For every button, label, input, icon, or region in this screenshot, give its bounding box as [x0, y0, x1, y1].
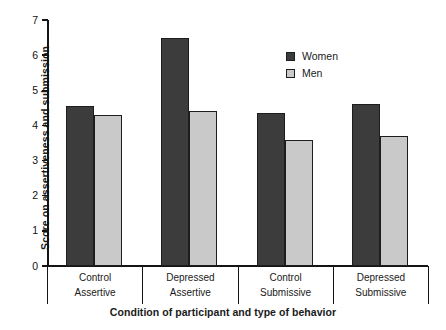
category-cell-2: DepressedAssertive [142, 266, 237, 304]
y-tick-label: 5 [22, 85, 38, 96]
y-tick-label: 0 [22, 261, 38, 272]
category-behavior-label: Submissive [260, 287, 311, 299]
bar-men-3 [285, 140, 313, 267]
bar-men-2 [189, 111, 217, 266]
x-axis-category-labels: ControlAssertiveDepressedAssertiveContro… [47, 266, 429, 304]
x-axis-title: Condition of participant and type of beh… [0, 306, 446, 318]
category-behavior-label: Submissive [355, 287, 406, 299]
category-cell-1: ControlAssertive [47, 266, 142, 304]
y-tick-label: 7 [22, 15, 38, 26]
category-condition-label: Control [79, 272, 111, 284]
bar-chart: Score on assertiveness and submission 01… [0, 0, 446, 330]
category-cell-3: ControlSubmissive [238, 266, 333, 304]
y-tick-label: 2 [22, 190, 38, 201]
bar-men-1 [94, 115, 122, 266]
bar-women-4 [352, 104, 380, 266]
y-tick-label: 4 [22, 120, 38, 131]
legend-item-women: Women [286, 48, 338, 65]
category-condition-label: Depressed [357, 272, 405, 284]
y-tick-label: 3 [22, 155, 38, 166]
category-condition-label: Control [270, 272, 302, 284]
legend-item-men: Men [286, 65, 338, 82]
legend-label: Women [302, 51, 338, 62]
category-cell-4: DepressedSubmissive [333, 266, 428, 304]
bar-men-4 [380, 136, 408, 266]
y-tick-label: 6 [22, 50, 38, 61]
legend: WomenMen [286, 48, 338, 82]
bar-women-1 [66, 106, 94, 266]
legend-label: Men [302, 68, 322, 79]
bar-women-2 [161, 38, 189, 266]
category-behavior-label: Assertive [170, 287, 211, 299]
legend-swatch-icon [286, 52, 295, 61]
legend-swatch-icon [286, 69, 295, 78]
y-tick-label: 1 [22, 225, 38, 236]
bar-women-3 [257, 113, 285, 266]
plot-area [47, 20, 428, 266]
category-condition-label: Depressed [166, 272, 214, 284]
category-behavior-label: Assertive [75, 287, 116, 299]
